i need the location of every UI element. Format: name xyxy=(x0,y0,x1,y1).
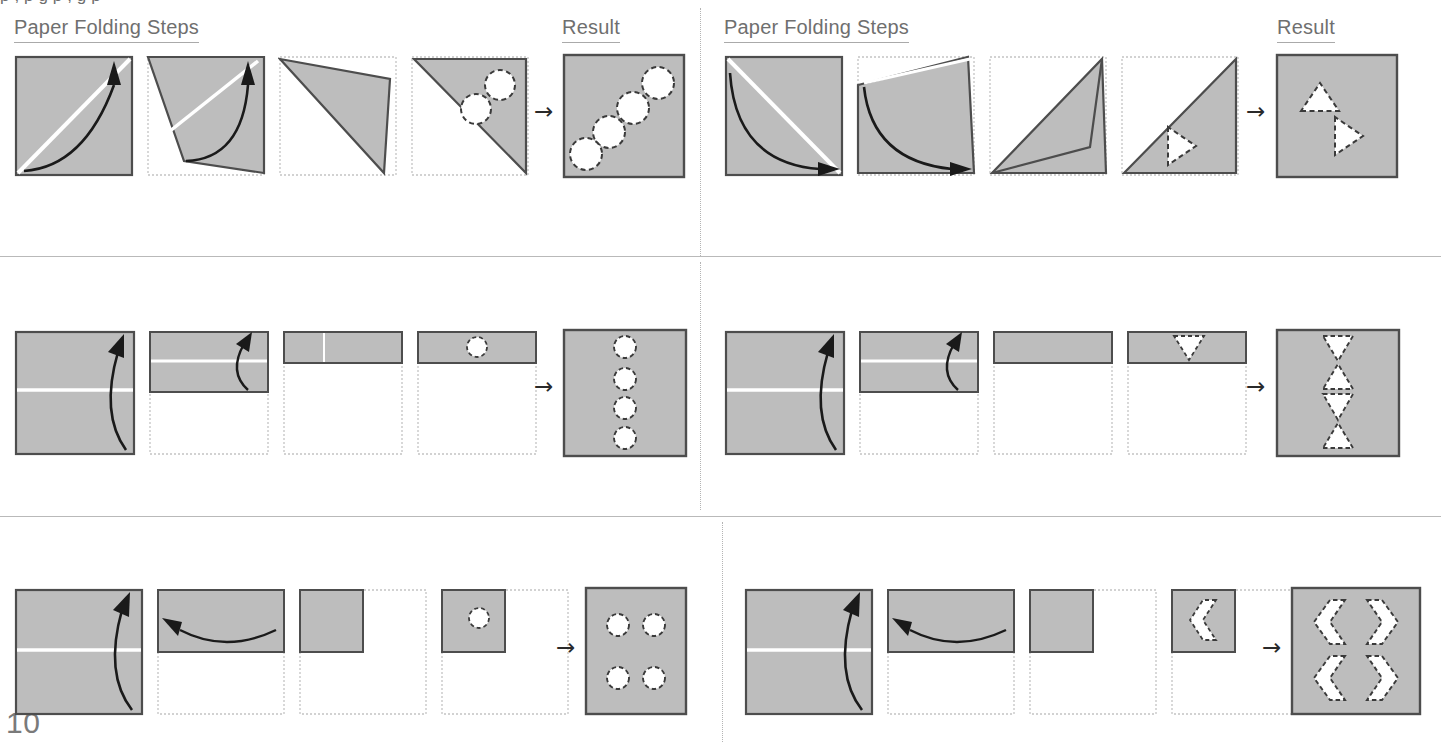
p1-step-2 xyxy=(146,55,266,177)
row-divider-2 xyxy=(0,516,1441,517)
p4-result-arrow: → xyxy=(1246,375,1265,398)
column-divider-row2 xyxy=(700,262,701,510)
p2-step-3 xyxy=(988,55,1108,177)
p4-step-2 xyxy=(858,330,980,456)
clipped-top-text: p , p g p , g p xyxy=(0,0,1441,12)
p5-step-1 xyxy=(14,588,144,716)
p6-result-arrow: → xyxy=(1262,636,1281,659)
p1-step-3 xyxy=(278,55,398,177)
p4-step-4 xyxy=(1126,330,1248,456)
p3-step-2 xyxy=(148,330,270,456)
steps-header-right: Paper Folding Steps xyxy=(724,16,909,43)
p3-step-3 xyxy=(282,330,404,456)
p1-step-4 xyxy=(410,55,530,177)
p6-result xyxy=(1290,586,1422,716)
p3-step-1 xyxy=(14,330,136,456)
column-divider-row3 xyxy=(722,522,723,742)
p6-step-3 xyxy=(1028,588,1158,716)
p1-result xyxy=(562,53,686,179)
result-header-left: Result xyxy=(562,16,620,43)
steps-header-left: Paper Folding Steps xyxy=(14,16,199,43)
p5-step-2 xyxy=(156,588,286,716)
p3-result xyxy=(562,328,688,458)
p4-step-3 xyxy=(992,330,1114,456)
p6-step-2 xyxy=(886,588,1016,716)
p1-step-1 xyxy=(14,55,134,177)
p1-result-arrow: → xyxy=(534,100,553,123)
puzzle-page: p , p g p , g p Paper Folding Steps Resu… xyxy=(0,0,1441,747)
p5-result xyxy=(584,586,688,716)
p6-step-1 xyxy=(744,588,874,716)
p2-step-2 xyxy=(856,55,976,177)
p5-step-4 xyxy=(440,588,570,716)
p4-step-1 xyxy=(724,330,846,456)
p2-step-4 xyxy=(1120,55,1240,177)
p3-step-4 xyxy=(416,330,538,456)
p4-result xyxy=(1275,328,1401,458)
result-header-right: Result xyxy=(1277,16,1335,43)
column-divider-row1 xyxy=(700,8,701,256)
p5-result-arrow: → xyxy=(556,636,575,659)
p2-result xyxy=(1275,53,1399,179)
p2-result-arrow: → xyxy=(1246,100,1265,123)
p2-step-1 xyxy=(724,55,844,177)
row-divider-1 xyxy=(0,256,1441,257)
p5-step-3 xyxy=(298,588,428,716)
p3-result-arrow: → xyxy=(534,375,553,398)
